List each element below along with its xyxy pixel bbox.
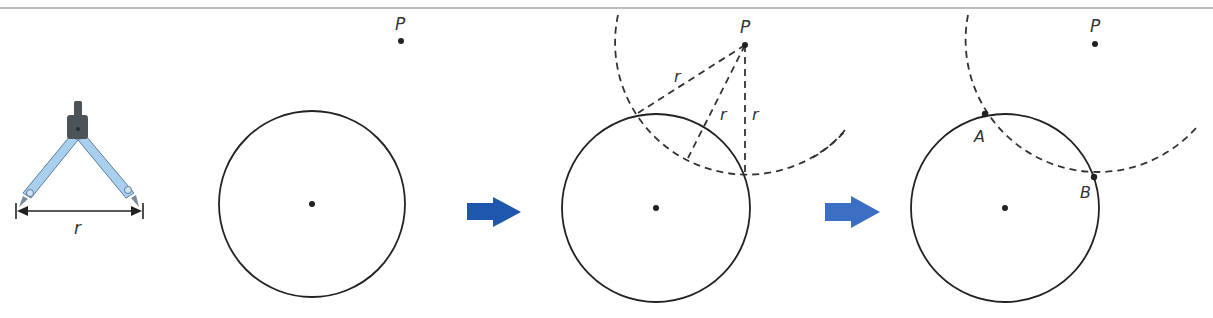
compass-right-tip (131, 195, 139, 207)
step-arrow-2 (825, 196, 880, 228)
point-p-dot (1092, 41, 1098, 47)
step-arrow-1 (467, 197, 521, 227)
point-p-label: P (1090, 16, 1101, 36)
compass-right-hinge (125, 187, 132, 194)
panel-step-2: P r r r (562, 15, 846, 302)
compass-left-tip (19, 196, 28, 207)
radius-label-2: r (720, 105, 728, 124)
circle-center-dot (309, 201, 315, 207)
intersection-b-dot (1091, 174, 1097, 180)
radius-measure (16, 203, 143, 219)
compass-icon (19, 101, 139, 207)
dashed-arc (966, 15, 1196, 172)
point-p-dot (742, 42, 748, 48)
panel-step-1: P (219, 14, 406, 297)
compass-radius-label: r (74, 218, 82, 238)
circle-center-dot (1002, 205, 1008, 211)
intersection-a-dot (982, 111, 988, 117)
circle-center-dot (653, 205, 659, 211)
point-p-dot (398, 38, 404, 44)
compass-head (67, 115, 88, 139)
point-p-label: P (740, 17, 751, 37)
compass-screw (76, 127, 80, 131)
previous-arc-fragment (812, 130, 845, 158)
panel-step-3: P A B (812, 15, 1196, 302)
compass-left-leg (23, 136, 78, 198)
radius-label-1: r (674, 67, 682, 86)
radius-line-2 (688, 45, 745, 158)
construction-diagram: r P P r r r P A B (0, 0, 1213, 318)
radius-label-3: r (752, 105, 760, 124)
compass-handle (74, 101, 82, 117)
compass-left-hinge (27, 190, 34, 197)
intersection-a-label: A (973, 127, 985, 146)
intersection-b-label: B (1080, 183, 1091, 202)
radius-line-1 (638, 45, 745, 113)
point-p-label: P (395, 14, 406, 34)
